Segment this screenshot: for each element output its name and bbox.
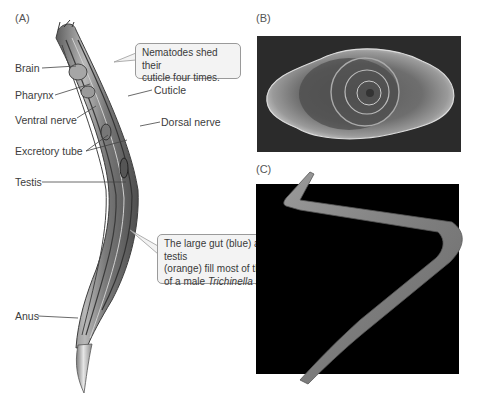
sem-worm-body xyxy=(0,0,480,406)
